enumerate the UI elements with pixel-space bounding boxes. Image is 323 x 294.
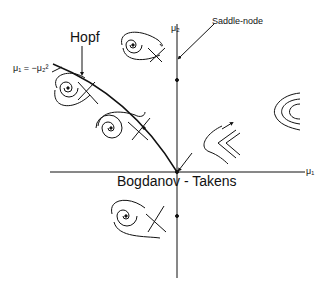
phase-portrait-cusp (204, 123, 240, 164)
bifurcation-diagram (0, 0, 323, 294)
mu1-axis-label: μ₁ (306, 167, 314, 176)
phase-portrait-upper-left (55, 73, 98, 105)
saddle-node-label: Saddle-node (212, 17, 263, 26)
curve-equation-label: μ₁ = −μ₂² (13, 64, 48, 73)
mu2-axis-label: μ₂ (171, 24, 180, 33)
hopf-curve (53, 64, 177, 172)
bogdanov-takens-label: Bogdanov - Takens (117, 174, 237, 188)
phase-portrait-lower-left (112, 200, 166, 238)
phase-portrait-right (274, 93, 300, 130)
phase-portrait-top (122, 32, 165, 62)
hopf-label: Hopf (70, 30, 100, 44)
